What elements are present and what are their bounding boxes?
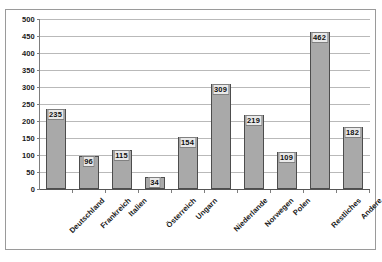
x-axis-category-label: Andere: [358, 196, 382, 221]
bar[interactable]: 109: [277, 152, 297, 189]
x-axis-tick-mark: [237, 190, 238, 193]
bar-value-label: 309: [212, 84, 229, 95]
bar-value-label: 115: [113, 150, 130, 161]
x-axis-tick-mark: [369, 190, 370, 193]
bar-slot: 219: [237, 19, 270, 189]
bar-slot: 182: [336, 19, 369, 189]
x-axis-category-label: Polen: [291, 196, 312, 217]
bar[interactable]: 462: [310, 32, 330, 189]
x-axis-category-label: Niederlande: [231, 196, 268, 233]
bar-value-label: 96: [82, 156, 95, 167]
bar-slot: 115: [105, 19, 138, 189]
x-axis-category-label: Deutschland: [67, 196, 106, 235]
x-axis-tick-mark: [270, 190, 271, 193]
bar-value-label: 109: [278, 152, 295, 163]
y-axis-tick-label: 150: [22, 134, 35, 143]
x-axis-tick-mark: [336, 190, 337, 193]
x-axis-tick-mark: [204, 190, 205, 193]
x-axis-category-label: Österreich: [164, 196, 198, 230]
bar-slot: 109: [270, 19, 303, 189]
chart-plot-wrapper: 050100150200250300350400450500 235961153…: [6, 10, 377, 251]
bar-value-label: 154: [179, 137, 196, 148]
y-axis-tick-label: 300: [22, 83, 35, 92]
bar-slot: 462: [303, 19, 336, 189]
bar-value-label: 235: [47, 109, 64, 120]
bar-slot: 309: [204, 19, 237, 189]
y-axis-tick-label: 500: [22, 15, 35, 24]
y-axis-tick-label: 350: [22, 66, 35, 75]
bar[interactable]: 235: [46, 109, 66, 189]
x-axis-category-label: Ungarn: [193, 196, 218, 221]
bar[interactable]: 34: [145, 177, 165, 189]
bar[interactable]: 182: [343, 127, 363, 189]
bar-slot: 154: [171, 19, 204, 189]
x-axis-labels-group: DeutschlandFrankreichItalienÖsterreichUn…: [39, 190, 369, 251]
y-axis-tick-label: 400: [22, 49, 35, 58]
x-axis-tick-mark: [72, 190, 73, 193]
x-axis-tick-mark: [105, 190, 106, 193]
bar[interactable]: 96: [79, 156, 99, 189]
y-axis-tick-label: 450: [22, 32, 35, 41]
bar-value-label: 34: [148, 177, 161, 188]
bar-value-label: 219: [245, 115, 262, 126]
y-axis-tick-label: 50: [26, 168, 35, 177]
y-axis-tick-label: 0: [31, 185, 35, 194]
bar[interactable]: 309: [211, 84, 231, 189]
bar-slot: 96: [72, 19, 105, 189]
chart-frame: 050100150200250300350400450500 235961153…: [5, 9, 376, 250]
bar-slot: 235: [39, 19, 72, 189]
x-axis-tick-mark: [138, 190, 139, 193]
x-axis-category-label: Restliches: [329, 196, 363, 230]
bar[interactable]: 115: [112, 150, 132, 189]
x-axis-tick-mark: [303, 190, 304, 193]
bar-value-label: 182: [344, 127, 361, 138]
y-axis-tick-label: 100: [22, 151, 35, 160]
bar[interactable]: 154: [178, 137, 198, 189]
y-axis-tick-label: 200: [22, 117, 35, 126]
bar-slot: 34: [138, 19, 171, 189]
bar[interactable]: 219: [244, 115, 264, 189]
bar-value-label: 462: [311, 32, 328, 43]
bars-group: 2359611534154309219109462182: [39, 19, 369, 189]
y-axis-tick-label: 250: [22, 100, 35, 109]
x-axis-tick-mark: [171, 190, 172, 193]
